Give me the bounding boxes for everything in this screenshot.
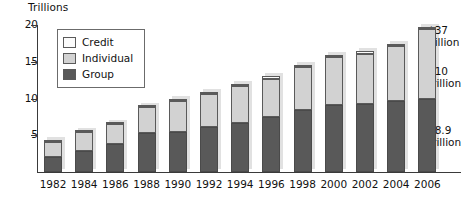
bar-1988: [138, 106, 156, 172]
bar-segment-individual-1988: [138, 107, 156, 133]
x-axis-label-2004: 2004: [379, 178, 413, 190]
bar-1998: [294, 65, 312, 172]
x-axis-label-1984: 1984: [67, 178, 101, 190]
bar-segment-group-2002: [356, 104, 374, 172]
bar-segment-credit-1998: [294, 65, 312, 67]
legend-item-individual: Individual: [63, 51, 139, 66]
bar-segment-individual-2006: [418, 29, 436, 98]
bar-segment-credit-1994: [231, 84, 249, 86]
x-axis-label-1990: 1990: [161, 178, 195, 190]
bar-segment-individual-1994: [231, 86, 249, 123]
legend-swatch-individual: [63, 53, 76, 64]
legend-swatch-credit: [63, 37, 76, 48]
bar-segment-group-2000: [325, 105, 343, 172]
bar-segment-group-1992: [200, 127, 218, 172]
bar-segment-individual-2000: [325, 57, 343, 105]
bar-segment-credit-2000: [325, 55, 343, 57]
x-axis-label-1994: 1994: [223, 178, 257, 190]
x-axis-label-1992: 1992: [192, 178, 226, 190]
bar-segment-individual-1984: [75, 132, 93, 150]
bar-segment-individual-2002: [356, 54, 374, 105]
x-axis-label-1996: 1996: [254, 178, 288, 190]
bar-segment-group-2004: [387, 101, 405, 172]
x-axis-label-2006: 2006: [410, 178, 444, 190]
legend-label-credit: Credit: [82, 37, 114, 48]
x-axis-label-1998: 1998: [286, 178, 320, 190]
chart-root: Trillions 2015105 1982198419861988199019…: [0, 0, 472, 209]
bar-2000: [325, 55, 343, 172]
legend-swatch-group: [63, 69, 76, 80]
bar-segment-individual-1982: [44, 142, 62, 157]
x-axis-label-1986: 1986: [98, 178, 132, 190]
bar-segment-individual-1998: [294, 67, 312, 110]
bar-segment-credit-2002: [356, 51, 374, 53]
bar-1982: [44, 140, 62, 172]
bar-segment-credit-1986: [106, 122, 124, 124]
bar-segment-group-1994: [231, 123, 249, 172]
bar-segment-individual-1992: [200, 94, 218, 127]
bar-segment-individual-1986: [106, 124, 124, 144]
legend-item-credit: Credit: [63, 35, 139, 50]
bar-2002: [356, 51, 374, 172]
bar-segment-group-1984: [75, 151, 93, 172]
bar-1984: [75, 131, 93, 172]
bar-1996: [262, 76, 280, 172]
bar-segment-credit-2004: [387, 44, 405, 46]
bar-segment-credit-1996: [262, 76, 280, 78]
bar-segment-group-1988: [138, 133, 156, 172]
x-axis-label-1982: 1982: [36, 178, 70, 190]
bar-1992: [200, 92, 218, 172]
chart-legend: Credit Individual Group: [57, 29, 145, 88]
bar-1994: [231, 84, 249, 172]
bar-segment-credit-1982: [44, 140, 62, 142]
bar-segment-credit-1984: [75, 130, 93, 132]
bar-segment-individual-1990: [169, 101, 187, 132]
bar-segment-credit-2006: [418, 27, 436, 29]
x-axis-label-2002: 2002: [348, 178, 382, 190]
bar-2004: [387, 44, 405, 172]
bar-segment-individual-2004: [387, 46, 405, 101]
bar-segment-group-1998: [294, 110, 312, 172]
bar-segment-group-2006: [418, 99, 436, 173]
legend-label-individual: Individual: [82, 53, 133, 64]
bar-segment-group-1986: [106, 144, 124, 172]
bar-segment-credit-1992: [200, 92, 218, 94]
bar-2006: [418, 27, 436, 172]
bar-segment-group-1990: [169, 132, 187, 172]
bar-segment-credit-1988: [138, 105, 156, 107]
bar-1986: [106, 123, 124, 172]
bar-segment-group-1996: [262, 117, 280, 172]
bar-segment-credit-1990: [169, 99, 187, 101]
bar-1990: [169, 99, 187, 173]
bar-segment-individual-1996: [262, 79, 280, 117]
x-axis-label-2000: 2000: [317, 178, 351, 190]
legend-item-group: Group: [63, 67, 139, 82]
x-axis-label-1988: 1988: [130, 178, 164, 190]
bar-segment-group-1982: [44, 157, 62, 172]
legend-label-group: Group: [82, 69, 114, 80]
